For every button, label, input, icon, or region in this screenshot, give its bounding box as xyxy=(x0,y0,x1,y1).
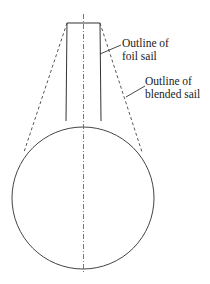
base-circle xyxy=(12,127,154,269)
blended-sail-leader xyxy=(126,86,145,97)
blended-sail-label-line2: blended sail xyxy=(145,88,200,101)
blended-sail-label: Outline of blended sail xyxy=(145,75,200,101)
foil-sail-label-line1: Outline of xyxy=(122,37,169,50)
foil-sail-label: Outline of foil sail xyxy=(122,37,169,63)
blended-sail-label-line1: Outline of xyxy=(145,75,200,88)
foil-sail-label-line2: foil sail xyxy=(122,50,169,63)
sail-diagram xyxy=(0,0,210,284)
blended-sail-left-outline xyxy=(24,23,67,152)
foil-sail-leader xyxy=(100,45,121,54)
